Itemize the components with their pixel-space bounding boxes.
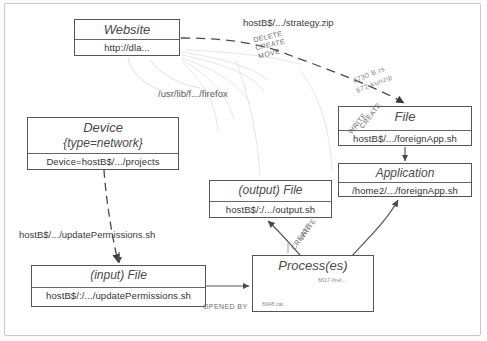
edge-label-strategy: hostB$/.../strategy.zip bbox=[243, 17, 334, 28]
node-application-label: /home2/.../foreignApp.sh bbox=[339, 182, 471, 199]
node-input-file-label: hostB$/:/.../updatePermissions.sh bbox=[32, 287, 205, 304]
node-device-label: Device=hostB$/.../projects bbox=[28, 153, 178, 170]
edge-label-firefox: /usr/lib/f.../firefox bbox=[158, 88, 228, 99]
diagram-canvas: Website http://dla... Device {type=netwo… bbox=[0, 0, 487, 341]
node-device-attr: {type=network} bbox=[28, 137, 178, 150]
node-process-title: Process(es) bbox=[253, 256, 373, 275]
edge-label-updatepermissions: hostB$/.../updatePermissions.sh bbox=[19, 229, 155, 240]
node-input-file[interactable]: (input) File hostB$/:/.../updatePermissi… bbox=[31, 265, 206, 307]
node-website-label: http://dla... bbox=[75, 39, 179, 56]
node-device[interactable]: Device {type=network} Device=hostB$/.../… bbox=[27, 117, 179, 170]
node-output-file-label: hostB$/:/.../output.sh bbox=[210, 201, 331, 218]
node-application[interactable]: Application /home2/.../foreignApp.sh bbox=[338, 163, 472, 197]
process-entry-cat: 6948 cat bbox=[262, 301, 283, 307]
process-entry-firefox: 6617-firef... bbox=[318, 277, 346, 283]
node-file-label: hostB$/.../foreignApp.sh bbox=[339, 130, 471, 147]
node-website-title: Website bbox=[75, 20, 179, 39]
node-output-file-title: (output) File bbox=[210, 181, 331, 199]
node-output-file[interactable]: (output) File hostB$/:/.../output.sh bbox=[209, 180, 332, 218]
node-website[interactable]: Website http://dla... bbox=[74, 19, 180, 56]
node-application-title: Application bbox=[339, 164, 471, 182]
edge-verb-opened-by: OPENED BY bbox=[203, 303, 247, 310]
node-device-title: Device bbox=[28, 118, 178, 137]
node-input-file-title: (input) File bbox=[32, 266, 205, 284]
